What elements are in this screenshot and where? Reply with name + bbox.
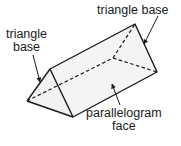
label-parallelogram-face: parallelogram face: [86, 107, 162, 133]
label-triangle-base-left: triangle base: [6, 28, 47, 54]
arrow-right-triangle: [144, 16, 158, 44]
arrow-left-triangle: [33, 55, 40, 82]
label-triangle-base-right: triangle base: [97, 4, 169, 17]
label-face-word: face: [86, 120, 162, 133]
label-base-word: base: [6, 41, 47, 54]
